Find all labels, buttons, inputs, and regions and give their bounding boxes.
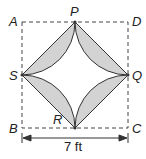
vertex-label-c: C [132,122,141,135]
vertex-label-s: S [9,69,18,82]
vertex-label-d: D [132,15,141,28]
dashed-square [22,22,128,128]
vertex-label-r: R [53,113,62,126]
vertex-points [21,21,130,130]
vertex-label-a: A [9,15,18,28]
vertex-label-q: Q [132,69,142,82]
vertex-label-p: P [70,5,79,18]
shaded-regions [22,22,128,128]
dimension-label: 7 ft [64,140,82,153]
figure [0,0,146,159]
vertex-label-b: B [9,122,18,135]
